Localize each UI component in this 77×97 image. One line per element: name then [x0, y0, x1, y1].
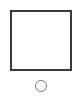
- square-outline-shape: [10, 10, 72, 71]
- circle-outline-shape[interactable]: [35, 80, 47, 92]
- canvas: [0, 0, 77, 97]
